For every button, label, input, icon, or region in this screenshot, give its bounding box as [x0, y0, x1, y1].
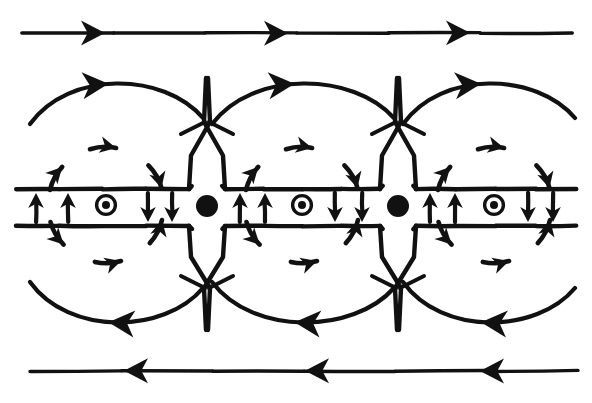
sheet-arrow-up-5 — [422, 193, 438, 222]
separatrix-cusp-top-2-right-branch — [395, 78, 416, 189]
sheet-arrow-down-5 — [520, 193, 536, 222]
separatrix-cusp-top-2 — [372, 78, 424, 189]
vortex-top-middle-arrowhead-2 — [295, 136, 312, 152]
o-point-3 — [485, 196, 504, 215]
separatrix-cusp-bottom-2-right-branch — [395, 226, 416, 330]
o-point-3-center-dot — [490, 201, 498, 209]
island-arc-bottom-middle-stroke — [212, 282, 394, 323]
island-arc-bottom-middle — [212, 282, 394, 337]
sheet-arrow-down-4 — [354, 193, 370, 222]
diagram-canvas — [0, 0, 592, 403]
o-point-1 — [97, 196, 116, 215]
island-arc-top-right — [403, 72, 575, 124]
x-point-2 — [387, 195, 409, 217]
separatrix-cusp-bottom-1-right-branch — [204, 226, 225, 330]
sheet-arrow-down-3 — [327, 193, 343, 222]
o-point-1-center-dot — [102, 201, 110, 209]
x-point-2-dot — [387, 195, 409, 217]
vortex-top-middle — [241, 136, 361, 190]
island-arc-bottom-right — [403, 282, 575, 338]
sheet-arrow-down-1 — [140, 193, 156, 222]
separatrix-cusp-top-1-right-branch — [204, 78, 225, 189]
x-point-1-dot — [196, 195, 218, 217]
island-arc-top-left — [30, 72, 203, 124]
island-arc-top-right-stroke — [403, 83, 575, 124]
vortex-top-right-arrowhead-2 — [487, 136, 504, 152]
separatrix-cusp-top-1-tail-left — [181, 122, 205, 134]
island-arc-top-left-stroke — [30, 83, 203, 124]
sheet-arrow-up-4 — [257, 193, 273, 222]
magnetic-reconnection-diagram — [0, 0, 592, 403]
island-arc-bottom-left-stroke — [30, 282, 203, 323]
island-arc-top-middle-stroke — [212, 83, 394, 124]
vortex-top-right — [433, 136, 553, 190]
vortex-top-left — [45, 136, 165, 190]
top-ambient-field-line — [22, 20, 572, 45]
o-point-2 — [293, 196, 312, 215]
bottom-ambient-field-line — [30, 358, 578, 383]
vortex-top-left-arrowhead-2 — [99, 136, 116, 152]
o-point-2-center-dot — [298, 201, 306, 209]
separatrix-cusp-top-1 — [181, 78, 233, 189]
separatrix-cusp-top-1-tail-right — [209, 122, 233, 134]
island-arc-bottom-left-arrowhead — [108, 311, 135, 338]
separatrix-cusp-bottom-1 — [181, 226, 233, 330]
sheet-arrow-up-3 — [232, 193, 248, 222]
neutral-points-layer — [97, 195, 504, 217]
sheet-arrow-up-2 — [60, 193, 76, 222]
sheet-arrow-down-6 — [545, 193, 561, 222]
sheet-arrow-down-2 — [164, 193, 180, 222]
sheet-arrow-up-1 — [28, 193, 44, 222]
island-arc-top-middle — [212, 72, 394, 124]
separatrix-cusp-top-2-tail-right — [400, 122, 424, 134]
separatrix-cusp-top-2-tail-left — [372, 122, 396, 134]
island-arc-bottom-right-arrowhead — [481, 311, 508, 338]
x-point-1 — [196, 195, 218, 217]
island-arc-bottom-right-stroke — [403, 282, 575, 323]
separatrix-cusp-bottom-2 — [372, 226, 424, 330]
sheet-arrow-up-6 — [447, 193, 463, 222]
island-arc-bottom-left — [30, 282, 203, 338]
